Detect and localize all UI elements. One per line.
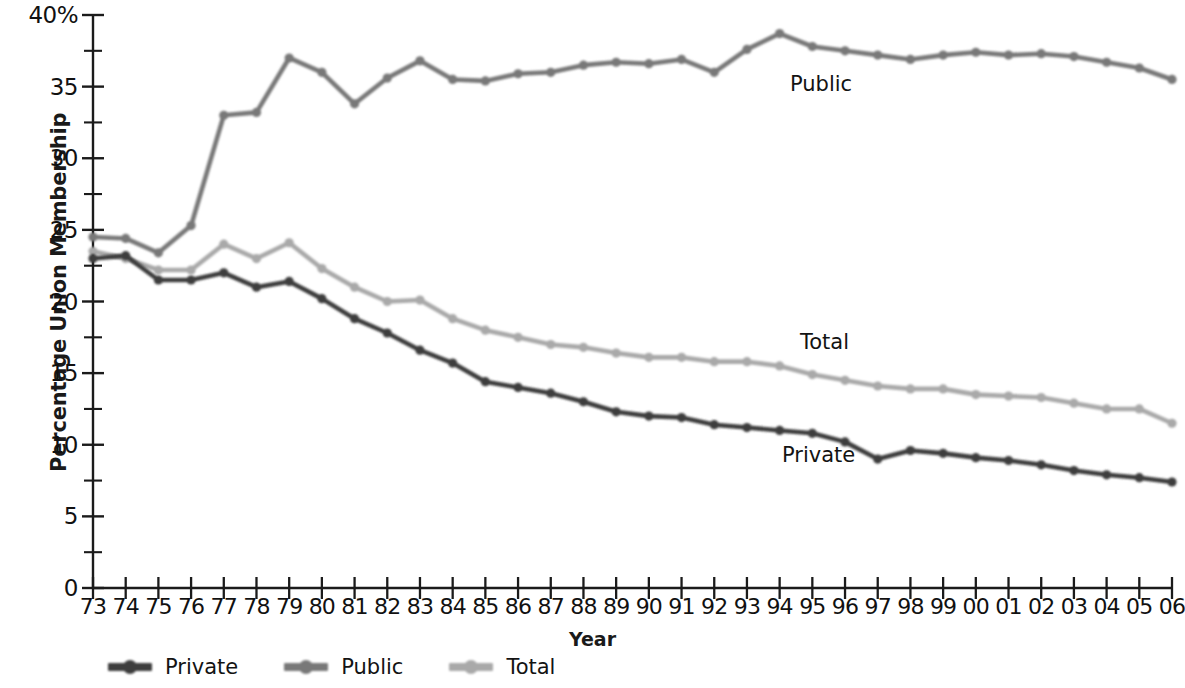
x-axis-tick-label: 96 <box>832 594 858 619</box>
x-axis-tick-label: 78 <box>243 594 269 619</box>
data-point <box>808 429 817 438</box>
data-point <box>546 389 555 398</box>
chart-legend: PrivatePublicTotal <box>108 652 601 682</box>
x-axis-tick-label: 93 <box>734 594 760 619</box>
data-point <box>121 251 130 260</box>
x-axis-tick-labels: 7374757677787980818283848586878889909192… <box>0 594 1185 626</box>
data-point <box>383 328 392 337</box>
x-axis-tick-label: 74 <box>112 594 138 619</box>
data-point <box>350 99 359 108</box>
data-point <box>808 42 817 51</box>
data-point <box>513 333 522 342</box>
data-point <box>415 56 424 65</box>
data-point <box>285 53 294 62</box>
legend-item-total[interactable]: Total <box>449 655 555 679</box>
data-point <box>317 68 326 77</box>
data-point <box>285 277 294 286</box>
data-point <box>350 314 359 323</box>
data-point <box>1167 419 1176 428</box>
data-point <box>710 68 719 77</box>
data-point <box>710 420 719 429</box>
data-point <box>1135 404 1144 413</box>
data-point <box>873 381 882 390</box>
data-point <box>644 353 653 362</box>
x-axis-tick-label: 89 <box>603 594 629 619</box>
data-point <box>873 51 882 60</box>
data-point <box>252 108 261 117</box>
data-point <box>1135 63 1144 72</box>
data-point <box>448 75 457 84</box>
x-axis-tick-label: 04 <box>1093 594 1119 619</box>
data-point <box>1102 404 1111 413</box>
x-axis-tick-label: 95 <box>799 594 825 619</box>
data-point <box>154 248 163 257</box>
x-axis-tick-label: 87 <box>538 594 564 619</box>
data-point <box>219 111 228 120</box>
data-point <box>840 46 849 55</box>
data-point <box>1037 49 1046 58</box>
series-label-private: Private <box>782 443 855 467</box>
legend-item-private[interactable]: Private <box>108 655 238 679</box>
x-axis-tick-label: 73 <box>80 594 106 619</box>
x-axis-tick-label: 01 <box>995 594 1021 619</box>
data-point <box>1069 399 1078 408</box>
x-axis-tick-label: 05 <box>1126 594 1152 619</box>
data-point <box>775 426 784 435</box>
data-point <box>775 29 784 38</box>
legend-label: Private <box>165 655 238 679</box>
data-point <box>285 238 294 247</box>
legend-label: Total <box>506 655 555 679</box>
legend-item-public[interactable]: Public <box>284 655 403 679</box>
data-point <box>906 55 915 64</box>
data-point <box>939 449 948 458</box>
x-axis-tick-label: 03 <box>1061 594 1087 619</box>
data-point <box>612 407 621 416</box>
data-point <box>481 377 490 386</box>
x-axis-tick-label: 81 <box>341 594 367 619</box>
data-point <box>579 61 588 70</box>
data-point <box>971 390 980 399</box>
data-point <box>906 384 915 393</box>
data-point <box>1135 473 1144 482</box>
data-point <box>1004 456 1013 465</box>
x-axis-tick-label: 94 <box>766 594 792 619</box>
data-point <box>415 295 424 304</box>
data-point <box>939 384 948 393</box>
data-point <box>677 353 686 362</box>
data-point <box>1167 477 1176 486</box>
data-point <box>808 370 817 379</box>
data-point <box>579 343 588 352</box>
data-point <box>317 264 326 273</box>
x-axis-tick-label: 76 <box>178 594 204 619</box>
x-axis-tick-label: 06 <box>1159 594 1185 619</box>
data-point <box>513 383 522 392</box>
data-point <box>154 265 163 274</box>
data-point <box>186 265 195 274</box>
data-point <box>742 423 751 432</box>
legend-label: Public <box>341 655 403 679</box>
x-axis-tick-label: 92 <box>701 594 727 619</box>
x-axis-tick-label: 83 <box>407 594 433 619</box>
data-point <box>448 359 457 368</box>
data-point <box>121 234 130 243</box>
x-axis-title: Year <box>0 628 1185 650</box>
x-axis-tick-label: 90 <box>636 594 662 619</box>
data-point <box>644 59 653 68</box>
data-point <box>906 446 915 455</box>
data-point <box>154 275 163 284</box>
data-point <box>252 254 261 263</box>
data-point <box>186 221 195 230</box>
x-axis-tick-label: 00 <box>963 594 989 619</box>
data-point <box>971 453 980 462</box>
data-point <box>677 413 686 422</box>
x-axis-tick-label: 98 <box>897 594 923 619</box>
data-point <box>1037 393 1046 402</box>
x-axis-tick-label: 02 <box>1028 594 1054 619</box>
data-point <box>775 361 784 370</box>
data-point <box>1102 58 1111 67</box>
data-point <box>1004 391 1013 400</box>
data-point <box>644 412 653 421</box>
data-point <box>971 48 980 57</box>
data-point <box>383 297 392 306</box>
legend-swatch-icon <box>449 663 493 671</box>
